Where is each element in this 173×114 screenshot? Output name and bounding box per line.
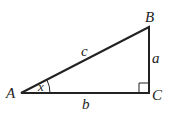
right-angle-marker xyxy=(139,83,149,93)
angle-arc xyxy=(47,80,50,93)
side-label-a: a xyxy=(152,50,160,66)
vertex-label-b: B xyxy=(145,9,154,25)
right-triangle-diagram: A B C c a b x xyxy=(0,0,173,114)
angle-label-x: x xyxy=(37,79,44,94)
side-label-c: c xyxy=(81,43,88,59)
side-label-b: b xyxy=(82,96,90,112)
vertex-label-c: C xyxy=(152,87,163,103)
vertex-label-a: A xyxy=(5,85,16,101)
